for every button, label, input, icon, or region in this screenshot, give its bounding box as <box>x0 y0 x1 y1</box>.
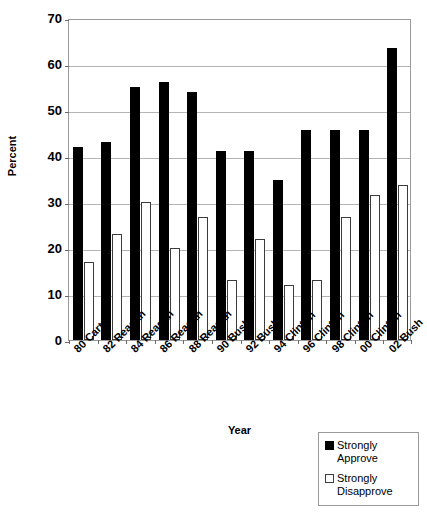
chart-legend: Strongly Approve Strongly Disapprove <box>318 432 419 506</box>
legend-swatch-empty-square-icon <box>325 474 334 483</box>
bar-chart: Percent 010203040506070 80 Carter82 Reag… <box>0 0 427 516</box>
legend-item-label: Strongly Approve <box>337 439 413 465</box>
legend-item-strongly-disapprove: Strongly Disapprove <box>325 472 413 498</box>
legend-item-label: Strongly Disapprove <box>337 472 413 498</box>
legend-item-strongly-approve: Strongly Approve <box>325 439 413 465</box>
legend-swatch-filled-square-icon <box>325 441 334 450</box>
